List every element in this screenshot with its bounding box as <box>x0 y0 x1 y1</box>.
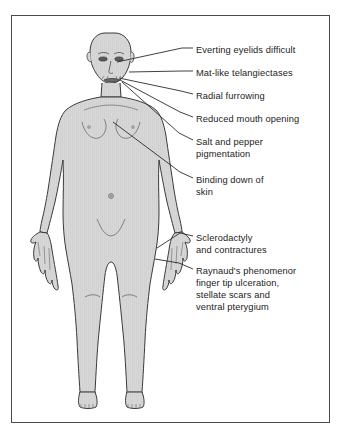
label-raynauds-phenomenon: Raynaud's phenomenorfinger tip ulceratio… <box>196 265 296 313</box>
label-salt-and-pepper-pigmentation-line-2: pigmentation <box>196 148 263 160</box>
label-salt-and-pepper-pigmentation: Salt and pepperpigmentation <box>196 136 263 160</box>
label-sclerodactyly-and-contractures-line-1: Sclerodactyly <box>196 232 267 244</box>
label-salt-and-pepper-pigmentation-line-1: Salt and pepper <box>196 136 263 148</box>
label-sclerodactyly-and-contractures-line-2: and contractures <box>196 244 267 256</box>
label-raynauds-phenomenon-line-1: Raynaud's phenomenor <box>196 265 296 277</box>
label-everting-eyelids-line-1: Everting eyelids difficult <box>196 44 295 56</box>
label-sclerodactyly-and-contractures: Sclerodactylyand contractures <box>196 232 267 256</box>
label-radial-furrowing-line-1: Radial furrowing <box>196 90 265 102</box>
label-mat-like-telangiectases-line-1: Mat-like telangiectases <box>196 67 293 79</box>
label-raynauds-phenomenon-line-2: finger tip ulceration, <box>196 277 296 289</box>
label-reduced-mouth-opening-line-1: Reduced mouth opening <box>196 113 299 125</box>
label-binding-down-of-skin: Binding down ofskin <box>196 174 264 198</box>
label-everting-eyelids: Everting eyelids difficult <box>196 44 295 56</box>
label-reduced-mouth-opening: Reduced mouth opening <box>196 113 299 125</box>
label-binding-down-of-skin-line-2: skin <box>196 186 264 198</box>
diagram-page: Everting eyelids difficultMat-like telan… <box>0 0 341 438</box>
label-raynauds-phenomenon-line-3: stellate scars and <box>196 289 296 301</box>
label-mat-like-telangiectases: Mat-like telangiectases <box>196 67 293 79</box>
label-binding-down-of-skin-line-1: Binding down of <box>196 174 264 186</box>
label-radial-furrowing: Radial furrowing <box>196 90 265 102</box>
label-raynauds-phenomenon-line-4: ventral pterygium <box>196 301 296 313</box>
